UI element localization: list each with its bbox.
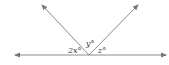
angle-label-right: z° — [97, 46, 106, 55]
angle-label-left: 2x° — [67, 46, 82, 55]
left-ray — [42, 5, 89, 55]
angle-diagram: 2x° y° z° — [0, 0, 169, 65]
right-ray — [89, 5, 138, 55]
angle-label-middle: y° — [85, 39, 95, 48]
